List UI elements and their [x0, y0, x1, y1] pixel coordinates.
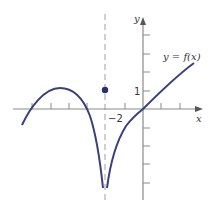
x-ticks: [32, 103, 180, 109]
curve-right-branch: [107, 63, 194, 188]
y-tick-label: 1: [134, 86, 140, 97]
function-graph: y x y = f(x) −2 1: [0, 0, 214, 215]
y-axis-label: y: [133, 13, 140, 24]
x-tick-label: −2: [108, 113, 123, 124]
y-axis-arrow-icon: [140, 17, 146, 25]
curve-left-branch: [22, 88, 103, 188]
x-axis-label: x: [196, 113, 202, 124]
curve-label: y = f(x): [162, 51, 201, 62]
isolated-point: [102, 87, 108, 93]
x-axis-arrow-icon: [195, 106, 203, 112]
